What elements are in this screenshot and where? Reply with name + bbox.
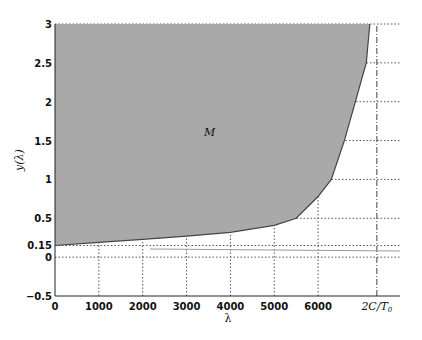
- x-tick: 5000: [260, 301, 288, 312]
- y-tick: 1.5: [34, 136, 52, 147]
- y-tick: 0.15: [27, 240, 52, 251]
- x-tick: 4000: [216, 301, 244, 312]
- y-tick: 2.5: [34, 58, 52, 69]
- y-tick: 0: [45, 252, 52, 263]
- y-axis-label: y(λ): [13, 149, 26, 172]
- y-tick: 2: [45, 97, 52, 108]
- y-tick: −0.5: [26, 291, 52, 302]
- x-tick: 2000: [129, 301, 157, 312]
- y-tick: 3: [45, 19, 52, 30]
- y-tick: 1: [45, 174, 52, 185]
- chart: 01000200030004000500060002C/T0−0.500.150…: [0, 0, 422, 340]
- reference-line: [150, 249, 400, 251]
- region-label: M: [203, 126, 216, 139]
- x-axis-label: λ: [225, 312, 232, 325]
- x-tick: 6000: [304, 301, 332, 312]
- x-tick-2c-t0: 2C/T0: [360, 300, 392, 314]
- y-tick: 0.5: [34, 213, 52, 224]
- x-tick: 0: [52, 301, 59, 312]
- x-tick: 3000: [173, 301, 201, 312]
- x-tick: 1000: [85, 301, 113, 312]
